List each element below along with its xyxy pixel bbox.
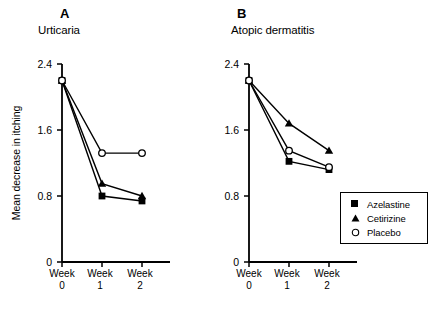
plot-area-a: [0, 0, 215, 311]
legend-label-cetirizine: Cetirizine: [363, 213, 406, 224]
plot-area-b: [215, 0, 440, 311]
panel-a: A Urticaria Mean decrease in itching 2.4…: [0, 0, 215, 311]
open-circle-icon: [347, 228, 363, 237]
plot-svg-a: [0, 0, 215, 311]
legend-label-azelastine: Azelastine: [363, 199, 410, 210]
legend-item-azelastine: Azelastine: [347, 197, 423, 211]
legend: Azelastine Cetirizine Placebo: [340, 192, 428, 244]
figure-container: A Urticaria Mean decrease in itching 2.4…: [0, 0, 440, 311]
plot-svg-b: [215, 0, 440, 311]
legend-item-cetirizine: Cetirizine: [347, 211, 423, 225]
panel-b: B Atopic dermatitis 2.4 1.6 0.8 0 Week 0…: [215, 0, 440, 311]
legend-item-placebo: Placebo: [347, 225, 423, 239]
legend-label-placebo: Placebo: [363, 227, 401, 238]
filled-triangle-icon: [347, 214, 363, 222]
filled-square-icon: [347, 200, 363, 208]
